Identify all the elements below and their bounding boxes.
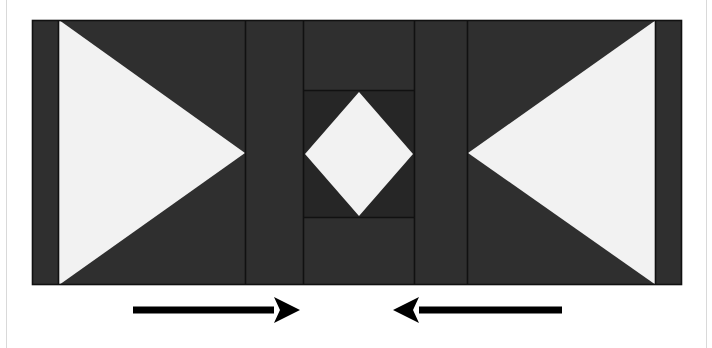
quilt-block-figure	[0, 0, 712, 348]
pieced-block	[32, 20, 682, 285]
arrow-right-shaft	[133, 307, 274, 314]
arrow-left-shaft	[419, 307, 562, 314]
diagram-stage	[0, 0, 712, 348]
